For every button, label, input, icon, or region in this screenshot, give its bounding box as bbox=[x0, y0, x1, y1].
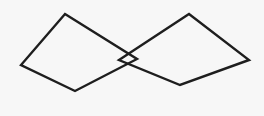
right-quadrilateral bbox=[119, 14, 249, 85]
left-quadrilateral bbox=[21, 14, 137, 91]
bowtie-diagram bbox=[0, 0, 264, 116]
diagram-canvas bbox=[0, 0, 264, 116]
